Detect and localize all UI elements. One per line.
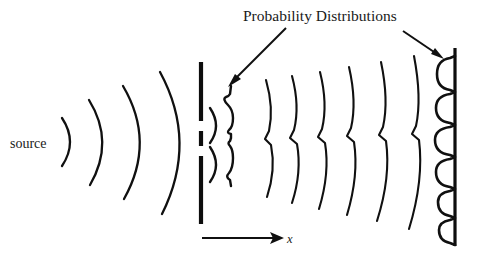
near-distribution-curve [224, 86, 233, 186]
arrow-to-screen-distribution-head [431, 48, 444, 59]
source-wavefront-4 [160, 72, 180, 214]
diffraction-figure: Probability Distributions source [0, 0, 479, 263]
slit-wavelet-lower [210, 147, 216, 182]
source-label: source [10, 136, 47, 151]
interference-wavefront-2 [290, 76, 299, 203]
source-wavefronts [62, 72, 180, 214]
two-peak-probability-distribution [224, 86, 233, 186]
arrow-to-screen-distribution [403, 31, 444, 59]
source-wavefront-2 [89, 100, 102, 185]
arrow-to-near-distribution-shaft [233, 28, 286, 81]
arrow-to-near-distribution [228, 28, 286, 87]
x-axis-label: x [286, 232, 293, 246]
interference-wavefront-4 [347, 67, 355, 215]
interference-wavefront-6 [409, 56, 420, 229]
source-wavefront-3 [123, 86, 140, 199]
source-wavefront-1 [62, 118, 70, 166]
x-axis-arrow: x [202, 232, 293, 246]
detector-screen [435, 48, 455, 246]
interference-wavefronts [265, 56, 420, 229]
figure-canvas: Probability Distributions source [0, 0, 479, 263]
interference-wavefront-5 [377, 62, 387, 221]
slit-wavelets [210, 108, 216, 182]
interference-wavefront-3 [318, 72, 327, 209]
slit-wavelet-upper [210, 108, 216, 143]
title-label: Probability Distributions [243, 7, 397, 24]
interference-wavefront-1 [265, 80, 273, 197]
screen-fringe-distribution [435, 56, 455, 245]
arrow-to-screen-distribution-shaft [403, 31, 437, 54]
